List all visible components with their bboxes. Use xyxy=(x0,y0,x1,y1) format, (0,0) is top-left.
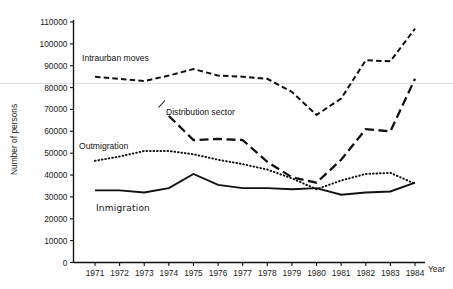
x-tick-label: 1983 xyxy=(381,268,400,278)
series-line-inmigration xyxy=(95,174,415,195)
line-chart-figure: 0100002000030000400005000060000700008000… xyxy=(0,0,453,289)
x-tick-label-group: 1971197219731974197519761977197819791980… xyxy=(86,268,425,278)
y-tick-label: 60000 xyxy=(44,126,68,136)
x-tick-label: 1976 xyxy=(209,268,228,278)
distribution-leader-line xyxy=(159,101,166,108)
chart-canvas: 0100002000030000400005000060000700008000… xyxy=(0,0,453,289)
x-tick-label: 1982 xyxy=(356,268,375,278)
series-line-distribution-sector xyxy=(169,79,415,183)
x-tick-label: 1975 xyxy=(184,268,203,278)
x-tick-label: 1973 xyxy=(135,268,154,278)
y-tick-label: 40000 xyxy=(44,170,68,180)
x-tick-label: 1971 xyxy=(86,268,105,278)
x-tick-label: 1974 xyxy=(160,268,179,278)
series-line-outmigration xyxy=(95,151,415,189)
y-tick-label: 90000 xyxy=(44,61,68,71)
y-tick-label: 70000 xyxy=(44,104,68,114)
x-tick-label: 1977 xyxy=(233,268,252,278)
y-tick-label: 20000 xyxy=(44,214,68,224)
series-label-distribution: Distribution sector xyxy=(166,107,235,117)
y-tick-label: 80000 xyxy=(44,83,68,93)
y-tick-label: 0 xyxy=(63,258,68,268)
x-tick-label: 1979 xyxy=(283,268,302,278)
x-tick-label: 1981 xyxy=(332,268,351,278)
y-tick-label: 30000 xyxy=(44,192,68,202)
x-tick-label: 1984 xyxy=(406,268,425,278)
x-axis-title: Year xyxy=(428,264,445,274)
y-tick-label: 100000 xyxy=(40,39,68,49)
x-tick-label: 1972 xyxy=(110,268,129,278)
y-tick-label: 50000 xyxy=(44,148,68,158)
y-tick-label-group: 0100002000030000400005000060000700008000… xyxy=(40,17,68,268)
x-tick-label: 1978 xyxy=(258,268,277,278)
y-axis-title: Number of persons xyxy=(9,104,19,175)
series-label-inmigration: Inmigration xyxy=(96,203,150,213)
series-label-intraurban: Intraurban moves xyxy=(82,53,149,63)
series-line-intraurban-moves xyxy=(95,29,415,115)
y-tick-label: 10000 xyxy=(44,236,68,246)
series-label-outmigration: Outmigration xyxy=(79,141,128,151)
y-tick-label: 110000 xyxy=(40,17,68,27)
x-tick-label: 1980 xyxy=(307,268,326,278)
